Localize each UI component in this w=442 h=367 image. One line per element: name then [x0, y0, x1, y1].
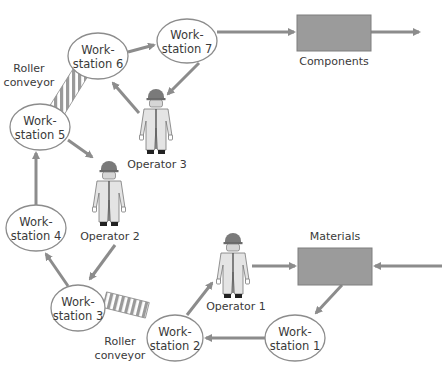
conveyor-label-line2: conveyor — [95, 349, 146, 362]
workstation-label-line1: Work- — [81, 43, 114, 57]
workstation-label-line2: station 4 — [11, 229, 62, 243]
operator-label: Operator 3 — [127, 158, 187, 171]
workstation-label-line1: Work- — [19, 215, 52, 229]
conveyor-upper-label: Rollerconveyor — [4, 62, 55, 89]
operator-2: Operator 2 — [80, 161, 140, 243]
workstations: Work-station 1Work-station 2Work-station… — [6, 19, 325, 361]
components-label: Components — [299, 55, 369, 68]
operator-person-icon — [140, 89, 173, 154]
operator-1: Operator 1 — [206, 233, 266, 313]
operator-person-icon — [217, 233, 250, 298]
conveyor-lower-label: Rollerconveyor — [95, 335, 146, 362]
workstation-label-line1: Work- — [61, 295, 94, 309]
workstation-label-line1: Work- — [23, 114, 56, 128]
operator-label: Operator 2 — [80, 230, 140, 243]
components-rect — [297, 15, 371, 51]
materials-label: Materials — [310, 230, 361, 243]
operator-3: Operator 3 — [127, 89, 187, 171]
workstation-1: Work-station 1 — [265, 315, 325, 361]
flow-arrow-ws3-to-ws4 — [46, 254, 68, 286]
production-flow-diagram: ComponentsMaterials Work-station 1Work-s… — [0, 0, 442, 367]
workstation-7: Work-station 7 — [157, 19, 217, 63]
flow-arrow-op3-to-ws6 — [113, 83, 139, 113]
conveyor-label-line2: conveyor — [4, 76, 55, 89]
workstation-2: Work-station 2 — [147, 315, 203, 361]
conveyor-label-line1: Roller — [104, 335, 136, 348]
workstation-label-line2: station 5 — [15, 128, 66, 142]
operators: Operator 1Operator 2Operator 3 — [80, 89, 266, 313]
workstation-label-line2: station 3 — [53, 309, 104, 323]
components-box: Components — [297, 15, 371, 68]
workstation-label-line1: Work- — [158, 325, 191, 339]
flow-arrow-ws7-to-op3 — [168, 63, 199, 94]
workstation-label-line1: Work- — [278, 325, 311, 339]
flow-arrow-op2-to-ws3 — [90, 245, 115, 279]
flow-arrow-materials-to-ws1 — [316, 285, 342, 313]
workstation-6: Work-station 6 — [68, 33, 128, 79]
workstation-label-line2: station 6 — [73, 57, 124, 71]
workstation-label-line1: Work- — [170, 28, 203, 42]
flow-arrow-ws5-to-op2 — [68, 140, 92, 157]
operator-person-icon — [93, 161, 126, 226]
materials-rect — [298, 248, 372, 285]
workstation-label-line2: station 1 — [270, 339, 321, 353]
conveyor-label-line1: Roller — [13, 62, 45, 75]
workstation-3: Work-station 3 — [51, 285, 105, 331]
roller-conveyor-lower — [103, 292, 150, 318]
flow-arrow-ws6-to-ws7 — [128, 45, 154, 52]
materials-box: Materials — [298, 230, 372, 285]
workstation-5: Work-station 5 — [10, 104, 70, 150]
operator-label: Operator 1 — [206, 300, 266, 313]
workstation-4: Work-station 4 — [6, 205, 66, 251]
workstation-label-line2: station 7 — [162, 42, 213, 56]
workstation-label-line2: station 2 — [150, 339, 201, 353]
inventory-boxes: ComponentsMaterials — [297, 15, 372, 285]
